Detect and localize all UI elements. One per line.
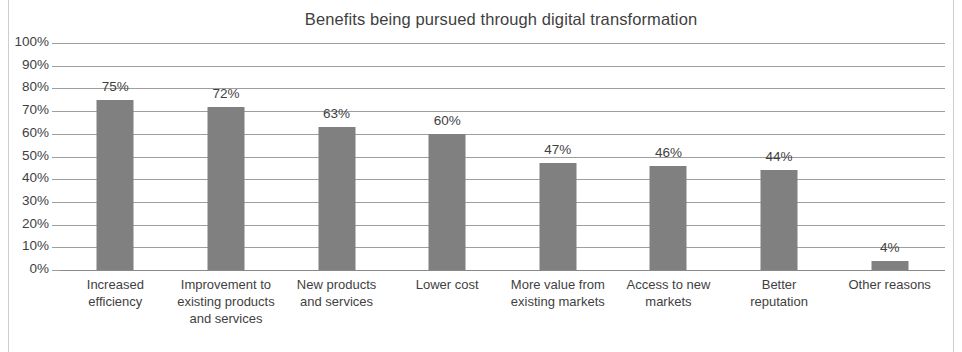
x-axis-category-labels: IncreasedefficiencyImprovement toexistin… bbox=[60, 276, 945, 348]
x-axis-category-label: Other reasons bbox=[834, 276, 945, 293]
bar[interactable] bbox=[761, 170, 798, 270]
x-axis-category: New productsand services bbox=[281, 276, 392, 310]
x-axis-category: More value fromexisting markets bbox=[503, 276, 614, 310]
x-axis-category-label-line: existing products bbox=[171, 293, 282, 310]
y-axis-tick-label: 20% bbox=[22, 216, 49, 231]
bar-group: 72% bbox=[171, 43, 282, 270]
y-axis-tick-label: 40% bbox=[22, 170, 49, 185]
bar-group: 46% bbox=[613, 43, 724, 270]
bar-value-label: 44% bbox=[766, 149, 793, 164]
x-axis-category-label-line: reputation bbox=[724, 293, 835, 310]
x-axis-category-label: Increasedefficiency bbox=[60, 276, 171, 310]
frame-border-right bbox=[953, 0, 954, 352]
x-axis-category-label-line: Other reasons bbox=[834, 276, 945, 293]
y-axis-tick-mark bbox=[52, 247, 60, 248]
x-axis-category-label-line: markets bbox=[613, 293, 724, 310]
bar-value-label: 46% bbox=[655, 145, 682, 160]
x-axis-category: Access to newmarkets bbox=[613, 276, 724, 310]
x-axis-category-label: More value fromexisting markets bbox=[503, 276, 614, 310]
bar-group: 4% bbox=[834, 43, 945, 270]
x-axis-category-label-line: New products bbox=[281, 276, 392, 293]
x-axis-category-label-line: and services bbox=[281, 293, 392, 310]
y-axis-tick-mark bbox=[52, 179, 60, 180]
bar-group: 47% bbox=[503, 43, 614, 270]
y-axis-tick-mark bbox=[52, 225, 60, 226]
y-axis-tick-label: 50% bbox=[22, 148, 49, 163]
bar-value-label: 60% bbox=[434, 113, 461, 128]
x-axis-category-label-line: and services bbox=[171, 310, 282, 327]
bar-value-label: 63% bbox=[323, 106, 350, 121]
bar[interactable] bbox=[539, 163, 576, 270]
y-axis-tick-mark bbox=[52, 111, 60, 112]
y-axis-tick-label: 10% bbox=[22, 238, 49, 253]
bar[interactable] bbox=[207, 107, 244, 270]
axis-baseline bbox=[60, 270, 945, 271]
chart-title: Benefits being pursued through digital t… bbox=[0, 10, 962, 29]
x-axis-category: Increasedefficiency bbox=[60, 276, 171, 310]
x-axis-category-label: Lower cost bbox=[392, 276, 503, 293]
y-axis-tick-label: 80% bbox=[22, 79, 49, 94]
bar[interactable] bbox=[97, 100, 134, 270]
x-axis-category-label-line: existing markets bbox=[503, 293, 614, 310]
x-axis-category-label-line: Improvement to bbox=[171, 276, 282, 293]
bar[interactable] bbox=[650, 166, 687, 270]
y-axis-tick-mark bbox=[52, 157, 60, 158]
x-axis-category-label: Access to newmarkets bbox=[613, 276, 724, 310]
y-axis-tick-label: 100% bbox=[14, 34, 49, 49]
y-axis-tick-mark bbox=[52, 88, 60, 89]
y-axis-tick-mark bbox=[52, 202, 60, 203]
bar[interactable] bbox=[871, 261, 908, 270]
bar-value-label: 72% bbox=[212, 86, 239, 101]
bar-value-label: 4% bbox=[880, 240, 900, 255]
bar-value-label: 75% bbox=[102, 79, 129, 94]
y-axis-tick-mark bbox=[52, 270, 60, 271]
bars-layer: 75%72%63%60%47%46%44%4% bbox=[60, 43, 945, 270]
x-axis-category: Other reasons bbox=[834, 276, 945, 293]
x-axis-category-label-line: Lower cost bbox=[392, 276, 503, 293]
x-axis-category-label: Betterreputation bbox=[724, 276, 835, 310]
y-axis: 100%90%80%70%60%50%40%30%20%10%0% bbox=[0, 43, 60, 270]
y-axis-tick-label: 60% bbox=[22, 125, 49, 140]
bar-chart-figure: Benefits being pursued through digital t… bbox=[0, 0, 962, 352]
bar-group: 75% bbox=[60, 43, 171, 270]
y-axis-tick-label: 90% bbox=[22, 57, 49, 72]
x-axis-category-label-line: Better bbox=[724, 276, 835, 293]
y-axis-tick-mark bbox=[52, 66, 60, 67]
x-axis-category-label-line: Increased bbox=[60, 276, 171, 293]
y-axis-tick-label: 30% bbox=[22, 193, 49, 208]
x-axis-category-label: New productsand services bbox=[281, 276, 392, 310]
x-axis-category-label: Improvement toexisting productsand servi… bbox=[171, 276, 282, 327]
x-axis-category: Lower cost bbox=[392, 276, 503, 293]
x-axis-category: Betterreputation bbox=[724, 276, 835, 310]
bar-group: 63% bbox=[281, 43, 392, 270]
x-axis-category-label-line: Access to new bbox=[613, 276, 724, 293]
y-axis-tick-label: 70% bbox=[22, 102, 49, 117]
bar-value-label: 47% bbox=[544, 142, 571, 157]
bar-group: 60% bbox=[392, 43, 503, 270]
y-axis-tick-mark bbox=[52, 43, 60, 44]
y-axis-tick-mark bbox=[52, 134, 60, 135]
x-axis-category-label-line: More value from bbox=[503, 276, 614, 293]
bar[interactable] bbox=[318, 127, 355, 270]
y-axis-tick-label: 0% bbox=[29, 261, 49, 276]
bar-group: 44% bbox=[724, 43, 835, 270]
bar[interactable] bbox=[429, 134, 466, 270]
x-axis-category-label-line: efficiency bbox=[60, 293, 171, 310]
x-axis-category: Improvement toexisting productsand servi… bbox=[171, 276, 282, 327]
